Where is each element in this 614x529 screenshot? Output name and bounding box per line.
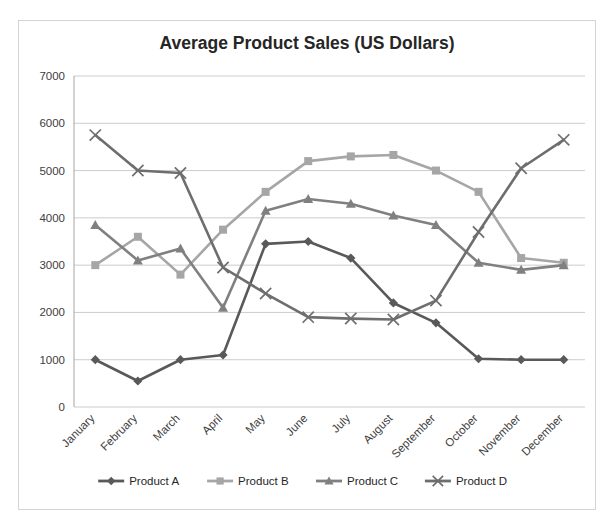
legend-label: Product C bbox=[347, 475, 398, 487]
y-tick-label: 6000 bbox=[39, 117, 65, 129]
x-axis-category-labels: JanuaryFebruaryMarchAprilMayJuneJulyAugu… bbox=[59, 411, 565, 460]
x-category-label: January bbox=[59, 412, 97, 450]
legend-label: Product B bbox=[238, 475, 289, 487]
x-category-label: October bbox=[443, 412, 481, 450]
x-category-label: November bbox=[477, 412, 523, 458]
x-category-label: February bbox=[98, 412, 139, 453]
data-point-triangle bbox=[90, 220, 100, 229]
data-point-diamond bbox=[91, 355, 100, 364]
x-category-label: August bbox=[361, 411, 395, 445]
legend-item-product-c[interactable]: Product C bbox=[316, 475, 398, 487]
data-point-diamond bbox=[559, 355, 568, 364]
x-category-label: April bbox=[200, 412, 225, 437]
data-point-square bbox=[134, 233, 142, 241]
chart-title: Average Product Sales (US Dollars) bbox=[159, 33, 454, 53]
data-point-square bbox=[217, 477, 224, 484]
data-point-square bbox=[389, 151, 397, 159]
y-tick-label: 2000 bbox=[39, 306, 65, 318]
x-category-label: June bbox=[284, 412, 310, 438]
data-point-diamond bbox=[133, 376, 142, 385]
x-category-label: September bbox=[389, 412, 437, 460]
y-tick-label: 1000 bbox=[39, 354, 65, 366]
data-point-square bbox=[91, 261, 99, 269]
data-point-square bbox=[475, 188, 483, 196]
y-tick-label: 0 bbox=[59, 401, 65, 413]
y-tick-label: 4000 bbox=[39, 212, 65, 224]
y-axis-tick-labels: 01000200030004000500060007000 bbox=[39, 70, 65, 413]
line-chart: Average Product Sales (US Dollars) 01000… bbox=[19, 21, 595, 509]
data-point-diamond bbox=[304, 237, 313, 246]
data-point-square bbox=[347, 152, 355, 160]
data-point-diamond bbox=[176, 355, 185, 364]
data-point-cross bbox=[217, 262, 228, 273]
data-point-triangle bbox=[175, 244, 185, 253]
x-category-label: December bbox=[519, 412, 565, 458]
legend-item-product-b[interactable]: Product B bbox=[207, 475, 289, 487]
data-point-square bbox=[517, 254, 525, 262]
series-group bbox=[90, 130, 570, 386]
data-point-square bbox=[176, 271, 184, 279]
data-point-cross bbox=[260, 288, 271, 299]
data-point-square bbox=[219, 226, 227, 234]
data-point-cross bbox=[430, 295, 441, 306]
x-category-label: July bbox=[329, 412, 352, 435]
data-point-cross bbox=[90, 130, 101, 141]
data-point-square bbox=[304, 157, 312, 165]
data-point-diamond bbox=[107, 477, 115, 485]
legend-label: Product D bbox=[456, 475, 507, 487]
legend-label: Product A bbox=[129, 475, 179, 487]
data-point-diamond bbox=[517, 355, 526, 364]
series-line bbox=[95, 135, 563, 319]
data-point-cross bbox=[516, 163, 527, 174]
data-point-diamond bbox=[218, 350, 227, 359]
data-point-diamond bbox=[261, 239, 270, 248]
data-point-cross bbox=[473, 226, 484, 237]
data-point-square bbox=[432, 167, 440, 175]
data-point-square bbox=[262, 188, 270, 196]
data-point-cross bbox=[558, 134, 569, 145]
chart-legend: Product AProduct BProduct CProduct D bbox=[98, 475, 507, 487]
y-tick-label: 7000 bbox=[39, 70, 65, 82]
series-product-b bbox=[91, 151, 567, 279]
legend-item-product-d[interactable]: Product D bbox=[425, 475, 507, 487]
y-tick-label: 3000 bbox=[39, 259, 65, 271]
x-category-label: March bbox=[151, 412, 182, 443]
legend-item-product-a[interactable]: Product A bbox=[98, 475, 179, 487]
x-category-label: May bbox=[243, 412, 267, 436]
y-tick-label: 5000 bbox=[39, 165, 65, 177]
series-product-c bbox=[90, 194, 568, 312]
gridlines bbox=[74, 76, 585, 407]
chart-container: Average Product Sales (US Dollars) 01000… bbox=[18, 20, 596, 510]
